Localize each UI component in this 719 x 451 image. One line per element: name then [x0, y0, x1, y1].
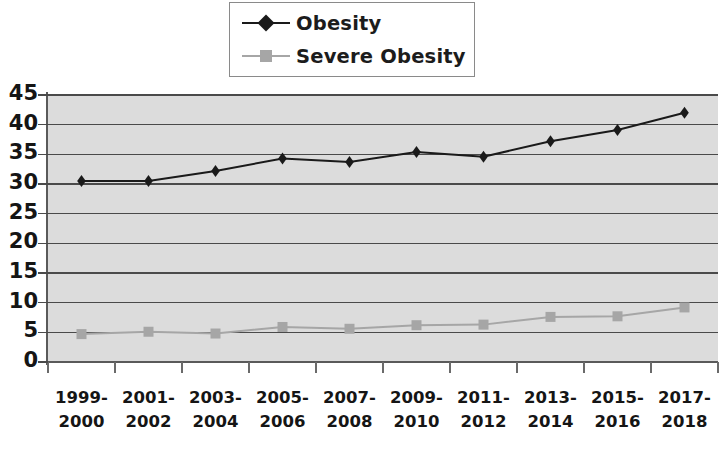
- gridline: [48, 94, 718, 96]
- gridline: [48, 302, 718, 304]
- x-axis-tick: [650, 362, 652, 373]
- x-axis-tick: [248, 362, 250, 373]
- legend-item-obesity[interactable]: Obesity: [242, 7, 474, 40]
- x-axis-tick-label: 2013- 2014: [517, 386, 584, 434]
- legend-label-severe-obesity: Severe Obesity: [296, 45, 466, 68]
- y-axis-tick-label: 40: [2, 113, 38, 134]
- x-axis-tick-label: 1999- 2000: [48, 386, 115, 434]
- legend-swatch-severe-obesity: [242, 47, 290, 65]
- x-axis-tick: [516, 362, 518, 373]
- gridline: [48, 183, 718, 185]
- y-axis-tick: [38, 272, 48, 274]
- y-axis-tick-label: 25: [2, 202, 38, 223]
- y-axis-tick-label: 35: [2, 142, 38, 163]
- x-axis-tick-label: 2017- 2018: [651, 386, 718, 434]
- legend-swatch-obesity: [242, 14, 290, 32]
- y-axis-tick-label: 20: [2, 231, 38, 252]
- gridline: [48, 124, 718, 126]
- x-axis-tick-label: 2011- 2012: [450, 386, 517, 434]
- gridline: [48, 213, 718, 215]
- legend-item-severe-obesity[interactable]: Severe Obesity: [242, 40, 474, 73]
- gridline: [48, 154, 718, 156]
- y-axis-tick: [38, 154, 48, 156]
- y-axis-tick: [38, 94, 48, 96]
- x-axis-tick: [47, 362, 49, 373]
- square-marker-icon: [260, 50, 272, 62]
- x-axis-tick: [114, 362, 116, 373]
- y-axis-tick-label: 10: [2, 291, 38, 312]
- gridline: [48, 272, 718, 274]
- x-axis-tick: [315, 362, 317, 373]
- y-axis-tick-label: 45: [2, 83, 38, 104]
- y-axis-line: [46, 92, 48, 365]
- x-axis-tick: [449, 362, 451, 373]
- gridline: [48, 243, 718, 245]
- y-axis-tick: [38, 183, 48, 185]
- plot-area: [48, 95, 718, 362]
- y-axis-tick: [38, 302, 48, 304]
- y-axis-tick-label: 30: [2, 172, 38, 193]
- x-axis-tick: [181, 362, 183, 373]
- y-axis-tick: [38, 124, 48, 126]
- chart-legend: Obesity Severe Obesity: [229, 2, 475, 77]
- x-axis-tick: [583, 362, 585, 373]
- x-axis-tick: [382, 362, 384, 373]
- legend-label-obesity: Obesity: [296, 12, 381, 35]
- y-axis-tick: [38, 361, 48, 363]
- gridline: [48, 332, 718, 334]
- diamond-marker-icon: [258, 15, 275, 32]
- x-axis-tick-label: 2007- 2008: [316, 386, 383, 434]
- x-axis-tick-label: 2005- 2006: [249, 386, 316, 434]
- y-axis-tick-label: 15: [2, 261, 38, 282]
- y-axis-tick-label: 0: [2, 350, 38, 371]
- y-axis-tick: [38, 332, 48, 334]
- y-axis-tick: [38, 243, 48, 245]
- x-axis-tick-label: 2003- 2004: [182, 386, 249, 434]
- x-axis-tick-label: 2001- 2002: [115, 386, 182, 434]
- x-axis-tick-label: 2015- 2016: [584, 386, 651, 434]
- y-axis-tick: [38, 213, 48, 215]
- x-axis-tick-label: 2009- 2010: [383, 386, 450, 434]
- y-axis-tick-label: 5: [2, 320, 38, 341]
- y-axis-labels: 454035302520151050: [0, 0, 38, 451]
